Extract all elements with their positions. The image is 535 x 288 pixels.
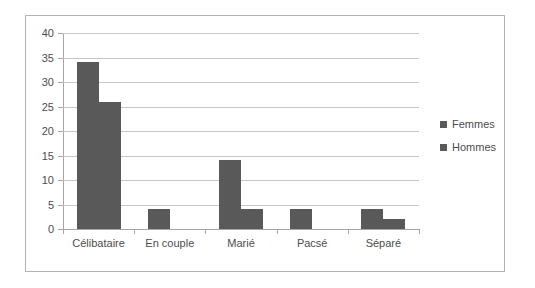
y-axis-tick xyxy=(58,180,63,181)
y-axis-label: 0 xyxy=(48,224,54,235)
category-label-4: Séparé xyxy=(366,238,401,249)
y-axis-label: 40 xyxy=(42,28,54,39)
y-axis-tick xyxy=(58,107,63,108)
category-axis-tick xyxy=(205,229,206,234)
bar-femmes-4[interactable] xyxy=(361,209,383,229)
bar-hommes-4[interactable] xyxy=(383,219,405,229)
category-axis: CélibataireEn coupleMariéPacséSéparé xyxy=(63,229,419,263)
y-axis-tick xyxy=(58,205,63,206)
legend-label: Hommes xyxy=(452,142,496,153)
y-axis-label: 30 xyxy=(42,77,54,88)
y-axis-tick xyxy=(58,82,63,83)
category-axis-tick xyxy=(134,229,135,234)
bar-femmes-3[interactable] xyxy=(290,209,312,229)
y-axis-label: 35 xyxy=(42,52,54,63)
category-label-0: Célibataire xyxy=(72,238,125,249)
bar-hommes-0[interactable] xyxy=(99,102,121,229)
gridline xyxy=(63,33,419,34)
y-axis-tick xyxy=(58,131,63,132)
square-marker xyxy=(440,121,447,128)
legend-item-femmes[interactable]: Femmes xyxy=(440,119,496,130)
legend-item-hommes[interactable]: Hommes xyxy=(440,142,496,153)
y-axis-tick xyxy=(58,33,63,34)
bar-femmes-1[interactable] xyxy=(148,209,170,229)
bar-femmes-0[interactable] xyxy=(77,62,99,229)
y-axis-label: 10 xyxy=(42,175,54,186)
y-axis-label: 5 xyxy=(48,199,54,210)
legend-label: Femmes xyxy=(452,119,495,130)
square-marker xyxy=(440,144,447,151)
category-label-2: Marié xyxy=(227,238,255,249)
category-axis-tick xyxy=(348,229,349,234)
y-axis-label: 25 xyxy=(42,101,54,112)
category-label-1: En couple xyxy=(145,238,194,249)
category-label-3: Pacsé xyxy=(297,238,328,249)
y-axis-tick xyxy=(58,156,63,157)
chart-frame: 0510152025303540 CélibataireEn coupleMar… xyxy=(25,15,505,272)
gridline xyxy=(63,82,419,83)
y-axis-tick xyxy=(58,58,63,59)
category-axis-tick xyxy=(419,229,420,234)
y-axis-label: 20 xyxy=(42,126,54,137)
chart-legend: FemmesHommes xyxy=(440,119,496,153)
bar-femmes-2[interactable] xyxy=(219,160,241,229)
category-axis-tick xyxy=(277,229,278,234)
bar-hommes-2[interactable] xyxy=(241,209,263,229)
gridline xyxy=(63,58,419,59)
category-axis-tick xyxy=(63,229,64,234)
plot-area: 0510152025303540 CélibataireEn coupleMar… xyxy=(63,33,419,229)
y-axis-label: 15 xyxy=(42,150,54,161)
